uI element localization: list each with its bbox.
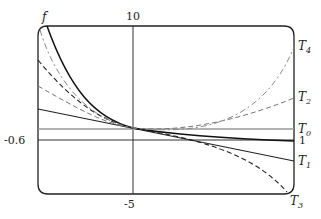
label-one: 1 [299, 134, 306, 147]
top-axis-label: 10 [126, 10, 140, 23]
series-T4 [40, 30, 294, 130]
bottom-axis-label: -5 [124, 198, 135, 211]
label-T1: T1 [298, 154, 311, 170]
series-T1 [38, 109, 294, 161]
series-f [47, 26, 294, 141]
function-label: f [41, 10, 49, 24]
plot-frame [38, 26, 294, 194]
label-T2: T2 [298, 90, 311, 106]
series-T2 [38, 86, 294, 129]
taylor-chart: f 10 -5 -0.6 T4 T2 T0 1 T1 T3 [0, 0, 321, 219]
label-T4: T4 [298, 39, 311, 55]
left-axis-label: -0.6 [4, 134, 25, 147]
series-T3 [38, 60, 287, 192]
label-T3: T3 [290, 194, 303, 210]
